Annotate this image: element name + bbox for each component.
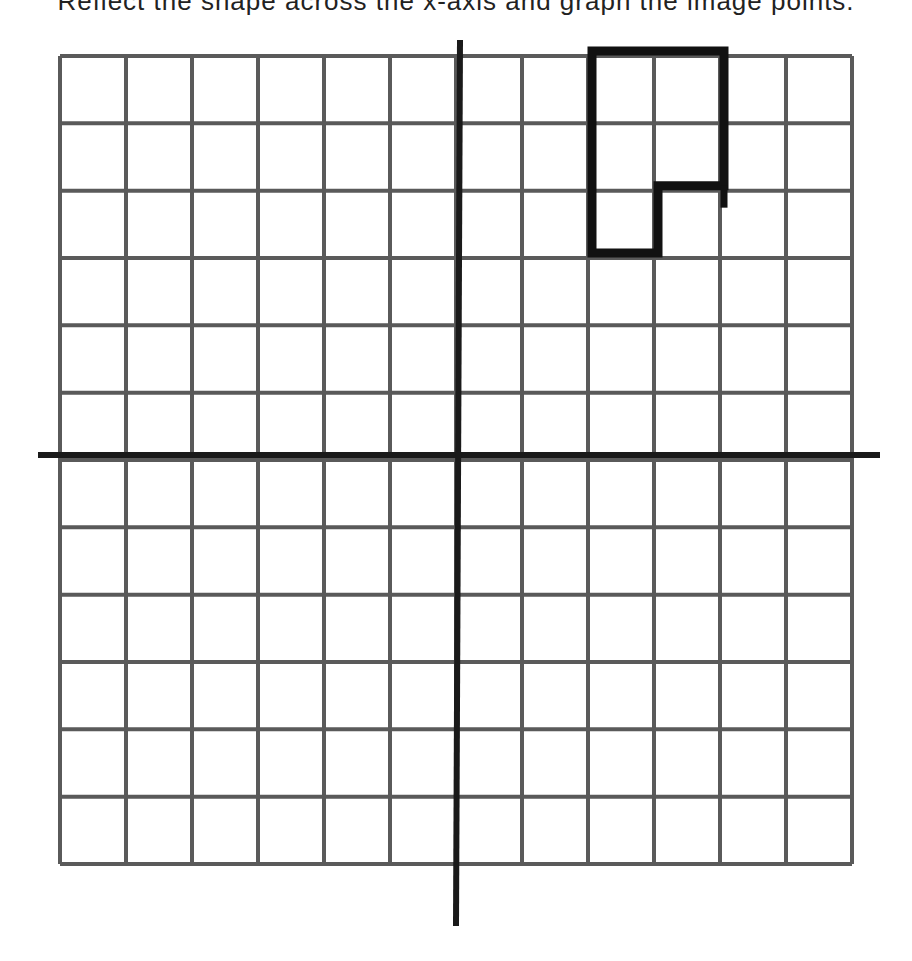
coordinate-plane bbox=[0, 0, 912, 961]
shape-layer bbox=[592, 51, 724, 253]
l-shape-polygon bbox=[592, 51, 724, 253]
y-axis bbox=[456, 40, 460, 926]
axes bbox=[38, 40, 880, 926]
